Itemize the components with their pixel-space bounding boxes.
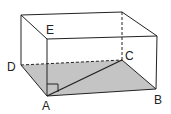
- label-e: E: [46, 23, 54, 37]
- label-c: C: [125, 49, 134, 63]
- label-b: B: [154, 93, 162, 107]
- cuboid-diagram: E D C A B: [0, 0, 171, 114]
- label-d: D: [7, 60, 16, 74]
- label-a: A: [42, 99, 50, 113]
